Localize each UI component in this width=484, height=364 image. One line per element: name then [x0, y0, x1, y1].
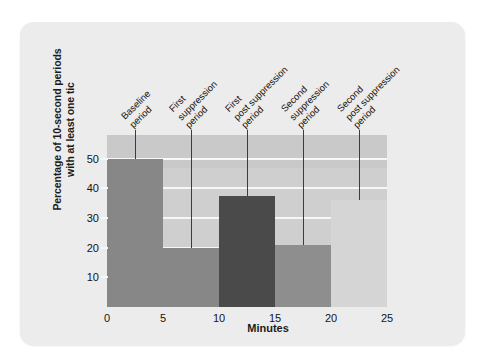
annotation-leader-line: [359, 130, 360, 200]
annotation-label: Baselineperiod: [119, 88, 161, 130]
annotation-leader-line: [303, 130, 304, 245]
y-axis-title-line-2: with at least one tic: [64, 82, 76, 177]
annotation-label: Secondpost suppressionperiod: [335, 55, 410, 130]
x-axis-title: Minutes: [88, 322, 448, 334]
y-tick-label: 20: [75, 242, 99, 254]
bar: [331, 200, 387, 307]
bar: [163, 248, 219, 307]
annotation-leader-line: [191, 130, 192, 248]
y-tick-label: 40: [75, 182, 99, 194]
bar: [107, 159, 163, 307]
bar: [275, 245, 331, 307]
y-tick-label: 10: [75, 271, 99, 283]
bar: [219, 196, 275, 307]
y-tick-mark: [101, 247, 108, 249]
y-tick-mark: [101, 158, 108, 160]
y-tick-label: 50: [75, 153, 99, 165]
y-axis-title-line-1: Percentage of 10-second periods: [51, 48, 63, 210]
annotation-leader-line: [135, 130, 136, 159]
y-tick-mark: [101, 187, 108, 189]
y-tick-mark: [101, 217, 108, 219]
annotation-leader-line: [247, 130, 248, 196]
y-tick-label: 30: [75, 212, 99, 224]
y-axis-title: Percentage of 10-second periods with at …: [38, 30, 77, 230]
annotation-label: Firstpost suppressionperiod: [223, 55, 298, 130]
figure-panel: Percentage of 10-second periods with at …: [20, 22, 465, 345]
annotation-label: Firstsuppressionperiod: [167, 69, 228, 130]
y-tick-mark: [101, 276, 108, 278]
